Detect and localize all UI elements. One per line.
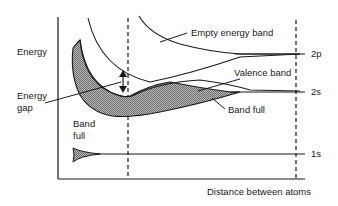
level-2s-label: 2s xyxy=(311,86,321,97)
valence-band-label: Valence band xyxy=(234,67,291,78)
energy-band-diagram xyxy=(0,0,338,206)
y-axis-label: Energy xyxy=(17,46,47,57)
energy-gap-arrow xyxy=(119,70,127,93)
x-axis-label: Distance between atoms xyxy=(207,186,311,197)
band-full-lower-label-line2: full xyxy=(73,130,85,141)
band-full-lower-label-line1: Band xyxy=(73,118,95,129)
core-band-shaded-region xyxy=(73,148,100,162)
level-1s-label: 1s xyxy=(311,148,321,159)
band-full-leader-line xyxy=(212,98,225,109)
level-2p-label: 2p xyxy=(311,48,322,59)
energy-gap-label-line1: Energy xyxy=(17,90,47,101)
empty-band-label: Empty energy band xyxy=(191,27,273,38)
energy-gap-label-line2: gap xyxy=(17,102,33,113)
band-full-upper-label: Band full xyxy=(228,104,265,115)
